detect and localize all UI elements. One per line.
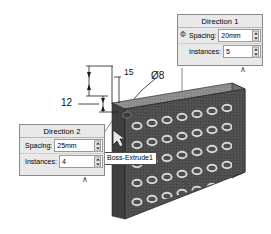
direction2-title: Direction 2 bbox=[20, 125, 104, 138]
stepper-down-icon[interactable] bbox=[95, 146, 100, 150]
stepper-up-icon[interactable] bbox=[253, 31, 258, 35]
direction2-spacing-value: 25mm bbox=[57, 142, 76, 149]
dimension-edge-offset[interactable]: 12 bbox=[61, 98, 72, 108]
direction2-spacing-stepper[interactable] bbox=[94, 140, 101, 151]
direction1-instances-field[interactable]: 5 bbox=[223, 45, 261, 58]
direction2-instances-label: Instances: bbox=[20, 154, 57, 169]
boss-extrude-tooltip: Boss-Extrude1 bbox=[103, 152, 157, 165]
stepper-up-icon[interactable] bbox=[95, 141, 100, 145]
direction1-instances-stepper[interactable] bbox=[252, 46, 259, 57]
stepper-down-icon[interactable] bbox=[253, 52, 258, 56]
direction2-spacing-label: Spacing: bbox=[20, 138, 52, 153]
direction1-spacing-row: Spacing: 20mm bbox=[178, 28, 262, 44]
direction1-spacing-label: Spacing: bbox=[186, 28, 216, 43]
direction2-instances-row: Instances: 4 bbox=[20, 154, 104, 169]
direction2-collapse-chevron[interactable]: ∧ bbox=[82, 176, 88, 184]
direction2-instances-stepper[interactable] bbox=[94, 156, 101, 167]
dimension-hole-pitch[interactable]: 15 bbox=[124, 68, 133, 77]
plate-solid[interactable] bbox=[112, 83, 245, 219]
stepper-up-icon[interactable] bbox=[95, 157, 100, 161]
seed-hole bbox=[123, 112, 131, 118]
direction1-spacing-value: 20mm bbox=[221, 32, 240, 39]
cad-viewport: 15 Ø8 12 Boss-Extrude1 Direction 1 Spaci… bbox=[0, 0, 271, 234]
dimension-hole-diameter[interactable]: Ø8 bbox=[151, 71, 164, 81]
direction2-instances-value: 4 bbox=[62, 158, 66, 165]
direction1-collapse-chevron[interactable]: ∧ bbox=[240, 66, 246, 74]
stepper-down-icon[interactable] bbox=[253, 36, 258, 40]
reverse-direction-icon[interactable] bbox=[179, 28, 186, 39]
direction1-instances-row: Instances: 5 bbox=[178, 44, 262, 59]
direction2-spacing-field[interactable]: 25mm bbox=[54, 139, 103, 152]
instances-icon bbox=[179, 44, 186, 55]
stepper-down-icon[interactable] bbox=[95, 162, 100, 166]
stepper-up-icon[interactable] bbox=[253, 47, 258, 51]
direction1-title: Direction 1 bbox=[178, 15, 262, 28]
direction2-panel[interactable]: Direction 2 Spacing: 25mm Instances: 4 bbox=[19, 124, 105, 176]
direction2-instances-field[interactable]: 4 bbox=[59, 155, 103, 168]
direction1-instances-label: Instances: bbox=[186, 44, 221, 59]
direction1-instances-value: 5 bbox=[226, 48, 230, 55]
direction2-spacing-row: Spacing: 25mm bbox=[20, 138, 104, 154]
direction1-spacing-field[interactable]: 20mm bbox=[218, 29, 261, 42]
direction1-spacing-stepper[interactable] bbox=[252, 30, 259, 41]
direction1-panel[interactable]: Direction 1 Spacing: 20mm Instances: bbox=[177, 14, 263, 66]
